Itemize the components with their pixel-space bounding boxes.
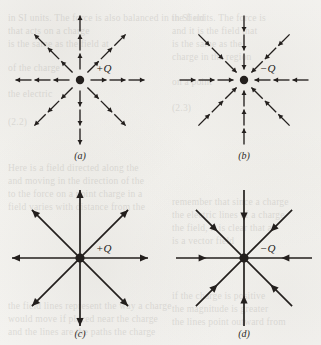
point-charge-dot	[75, 253, 84, 262]
arrowhead-outward	[54, 78, 59, 83]
arrowhead-outward	[16, 78, 21, 83]
point-charge-dot	[239, 253, 248, 262]
arrowhead-inward	[242, 27, 247, 32]
field-lines-c	[0, 164, 174, 345]
field-diagram-panel-d	[150, 164, 321, 345]
arrowhead-inward	[191, 78, 196, 83]
charge-label-b: −Q	[260, 62, 275, 74]
arrowhead-outward	[78, 16, 83, 21]
field-line	[196, 210, 241, 255]
arrowhead-inward	[274, 78, 279, 83]
panel-caption-a: (a)	[60, 150, 100, 161]
panel-caption-c: (c)	[60, 328, 100, 339]
field-lines-a	[0, 0, 172, 172]
arrowhead-outward	[140, 254, 148, 261]
arrowhead-outward	[78, 140, 83, 145]
arrowhead-inward	[240, 295, 247, 303]
arrowhead-outward	[76, 318, 83, 326]
arrowhead-inward	[242, 129, 247, 134]
arrowhead-inward	[210, 78, 215, 83]
field-lines-b	[152, 0, 321, 172]
point-charge-dot	[240, 76, 248, 84]
charge-label-a: +Q	[96, 62, 111, 74]
arrowhead-outward	[140, 78, 145, 83]
arrowhead-inward	[242, 65, 247, 70]
arrowhead-inward	[281, 254, 289, 261]
arrowhead-outward	[76, 190, 83, 198]
point-charge-dot	[76, 76, 84, 84]
panel-caption-b: (b)	[224, 150, 264, 161]
arrowhead-outward	[121, 78, 126, 83]
arrowhead-inward	[255, 78, 260, 83]
arrowhead-inward	[229, 78, 234, 83]
arrowhead-outward	[12, 254, 20, 261]
arrowhead-inward	[240, 213, 247, 221]
arrowhead-inward	[199, 254, 207, 261]
arrowhead-outward	[78, 121, 83, 126]
field-diagram-panel-b	[152, 0, 321, 172]
arrowhead-inward	[242, 91, 247, 96]
arrowhead-inward	[293, 78, 298, 83]
charge-label-d: −Q	[260, 242, 275, 254]
arrowhead-outward	[78, 102, 83, 107]
arrowhead-inward	[242, 46, 247, 51]
field-line	[196, 261, 241, 306]
field-line	[32, 261, 77, 306]
field-diagram-panel-a	[0, 0, 172, 172]
panel-caption-d: (d)	[224, 328, 264, 339]
field-line	[83, 261, 128, 306]
arrowhead-inward	[242, 110, 247, 115]
electric-field-figure-grid: +Q(a)−Q(b)+Q(c)−Q(d)	[0, 0, 321, 345]
field-line	[32, 210, 77, 255]
arrowhead-outward	[78, 54, 83, 59]
field-line	[247, 261, 292, 306]
field-diagram-panel-c	[0, 164, 174, 345]
charge-label-c: +Q	[96, 242, 111, 254]
arrowhead-outward	[102, 78, 107, 83]
field-lines-d	[150, 164, 321, 345]
arrowhead-outward	[35, 78, 40, 83]
arrowhead-outward	[78, 35, 83, 40]
